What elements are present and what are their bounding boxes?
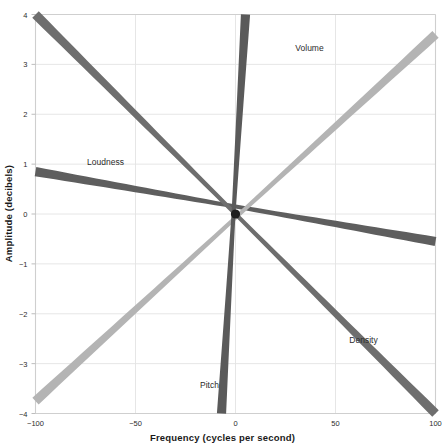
chart-container: Frequency (cycles per second) Amplitude … (0, 0, 445, 448)
x-tick-label: −50 (129, 419, 142, 428)
y-tick-label: 1 (6, 160, 28, 169)
y-tick-label: 3 (6, 60, 28, 69)
x-tick-label: 0 (233, 419, 237, 428)
x-tick-label: 100 (429, 419, 442, 428)
y-tick-label: −4 (6, 409, 28, 418)
y-tick-label: 0 (6, 210, 28, 219)
series-label-volume: Volume (295, 43, 323, 53)
y-tick-label: 2 (6, 110, 28, 119)
x-tick-label: −100 (27, 419, 44, 428)
y-tick-label: −1 (6, 259, 28, 268)
series-label-loudness: Loudness (87, 157, 124, 167)
chart-plot-area (0, 0, 445, 448)
axis-tickmarks (32, 15, 36, 414)
y-tick-label: −2 (6, 309, 28, 318)
x-tick-label: 50 (331, 419, 339, 428)
y-tick-label: 4 (6, 10, 28, 19)
series-label-density: Density (349, 335, 377, 345)
x-axis-title: Frequency (cycles per second) (0, 432, 445, 443)
y-tick-label: −3 (6, 359, 28, 368)
series-label-pitch: Pitch (200, 380, 219, 390)
